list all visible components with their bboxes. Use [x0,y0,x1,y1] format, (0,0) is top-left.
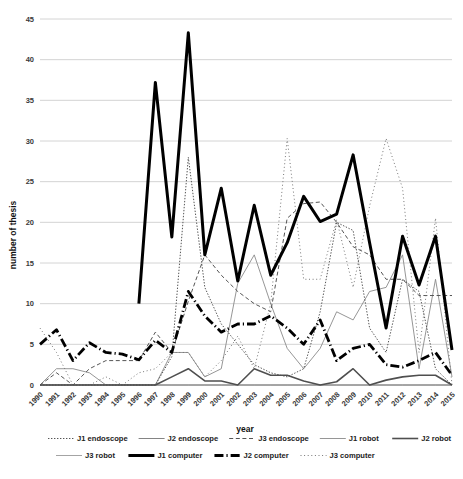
legend-label-j1-endoscope: J1 endoscope [77,434,128,443]
y-tick-label: 25 [26,177,34,186]
y-tick-label: 45 [26,15,34,24]
x-tick-label: 2010 [356,390,374,408]
data-series-group [40,33,452,385]
x-tick-label: 2006 [290,390,308,408]
x-tick-label: 1992 [60,390,78,408]
x-axis-title: year [236,424,254,434]
legend-label-j2-robot: J2 robot [421,434,451,443]
gridlines-group [40,19,452,385]
y-tick-label: 15 [26,259,34,268]
x-tick-label: 1993 [76,390,94,408]
x-tick-label: 2007 [307,390,325,408]
thesis-count-line-chart: 051015202530354045 199019911992199319941… [0,0,463,479]
x-tick-label: 2009 [340,390,358,408]
x-tick-label: 2003 [241,390,259,408]
series-line-j1-endoscope [40,157,452,385]
x-axis-tick-labels: 1990199119921993199419951996199719981999… [27,389,457,408]
x-tick-label: 1998 [159,390,177,408]
legend-label-j1-computer: J1 computer [157,451,202,460]
y-tick-label: 35 [26,96,34,105]
series-line-j3-endoscope [40,202,452,385]
legend-label-j1-robot: J1 robot [349,434,379,443]
legend-label-j3-computer: J3 computer [330,451,375,460]
x-tick-label: 2011 [373,390,391,408]
x-tick-label: 1999 [175,390,193,408]
series-line-j2-robot [40,369,452,385]
series-line-j3-computer [40,139,452,385]
x-tick-label: 1996 [126,390,144,408]
y-tick-label: 20 [26,218,34,227]
x-tick-label: 2001 [208,390,226,408]
x-tick-label: 2002 [225,390,243,408]
legend-label-j2-endoscope: J2 endoscope [168,434,219,443]
legend-label-j3-robot: J3 robot [85,451,115,460]
y-tick-label: 30 [26,137,34,146]
x-tick-label: 2015 [439,390,457,408]
x-tick-label: 2012 [389,390,407,408]
x-tick-label: 1994 [93,389,112,408]
x-tick-label: 2013 [406,390,424,408]
x-tick-label: 1995 [109,390,127,408]
x-tick-label: 1997 [142,390,160,408]
x-tick-label: 2004 [257,389,276,408]
y-tick-label: 10 [26,299,34,308]
legend: J1 endoscopeJ2 endoscopeJ3 endoscopeJ1 r… [48,434,452,460]
x-tick-label: 1990 [27,390,45,408]
y-tick-label: 0 [30,381,34,390]
y-tick-label: 40 [26,55,34,64]
chart-canvas: 051015202530354045 199019911992199319941… [0,0,463,479]
x-tick-label: 2005 [274,390,292,408]
x-tick-label: 2014 [422,389,441,408]
x-tick-label: 2008 [323,390,341,408]
legend-label-j3-endoscope: J3 endoscope [258,434,309,443]
x-tick-label: 2000 [192,390,210,408]
y-axis-title: number of thesis [8,200,18,269]
y-tick-label: 5 [30,340,34,349]
x-tick-label: 1991 [43,390,61,408]
series-line-j1-robot [40,255,452,385]
legend-label-j2-computer: J2 computer [243,451,288,460]
y-axis-tick-labels: 051015202530354045 [26,15,34,390]
